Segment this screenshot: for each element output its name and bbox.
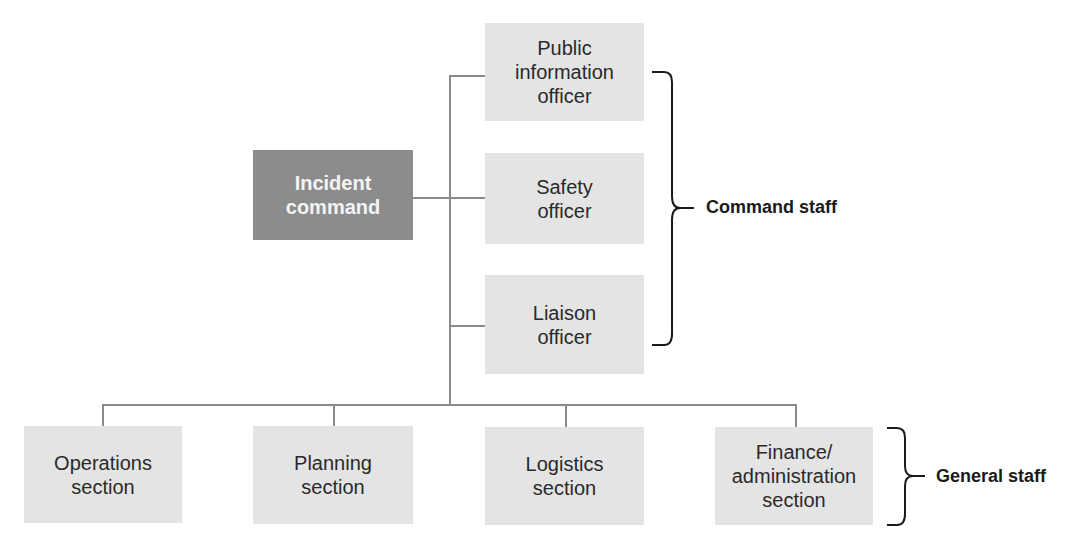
operations-section-node: Operations section xyxy=(24,426,182,523)
general-staff-brace xyxy=(885,426,935,528)
incident-command-label: Incident command xyxy=(286,171,380,219)
logistics-section-node: Logistics section xyxy=(485,427,644,525)
general-staff-label: General staff xyxy=(936,466,1046,487)
operations-section-label: Operations section xyxy=(54,451,152,499)
connector-finance xyxy=(795,404,797,427)
connector-root xyxy=(413,197,485,199)
general-staff-bus xyxy=(102,404,796,406)
command-staff-brace xyxy=(650,70,700,350)
incident-command-node: Incident command xyxy=(253,150,413,240)
liaison-officer-label: Liaison officer xyxy=(533,301,596,349)
safety-officer-node: Safety officer xyxy=(485,153,644,244)
trunk-line xyxy=(449,75,451,405)
public-information-officer-node: Public information officer xyxy=(485,23,644,121)
connector-operations xyxy=(102,404,104,426)
connector-public-info xyxy=(449,75,485,77)
finance-administration-section-node: Finance/ administration section xyxy=(715,427,873,525)
connector-planning xyxy=(333,404,335,426)
logistics-section-label: Logistics section xyxy=(526,452,604,500)
finance-administration-section-label: Finance/ administration section xyxy=(732,440,857,512)
liaison-officer-node: Liaison officer xyxy=(485,275,644,374)
planning-section-label: Planning section xyxy=(294,451,372,499)
public-information-officer-label: Public information officer xyxy=(515,36,614,108)
safety-officer-label: Safety officer xyxy=(536,175,593,223)
command-staff-label: Command staff xyxy=(706,197,837,218)
planning-section-node: Planning section xyxy=(253,426,413,524)
connector-liaison xyxy=(449,325,485,327)
connector-logistics xyxy=(565,404,567,427)
